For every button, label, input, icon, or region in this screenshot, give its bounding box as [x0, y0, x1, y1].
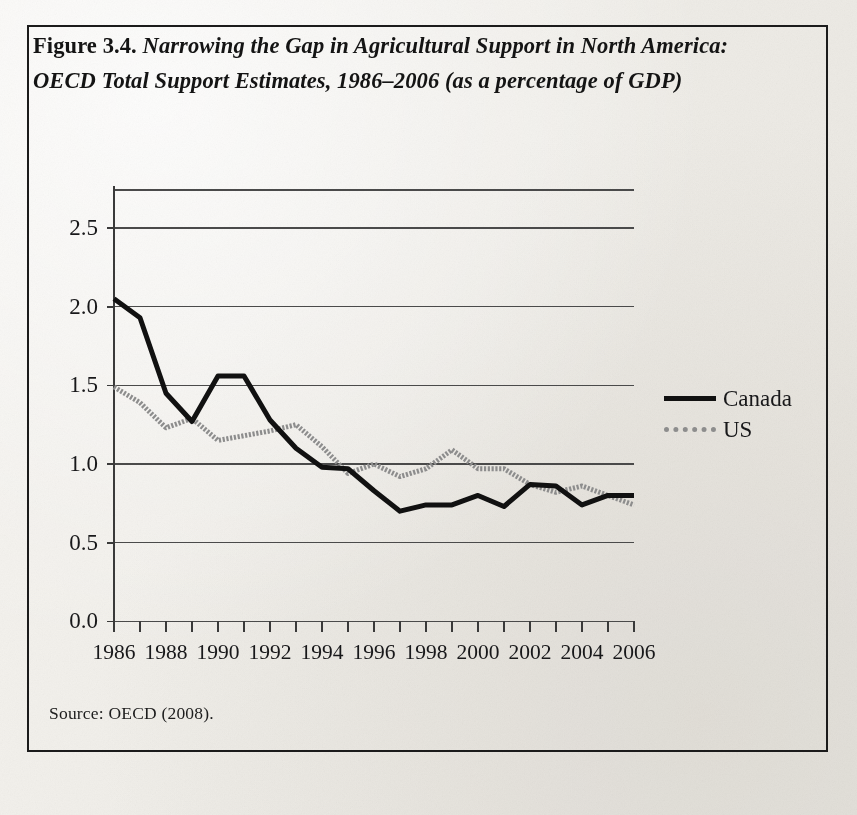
legend-entry-us: US	[664, 414, 824, 445]
chart-plot-area: 2.5 2.0 1.5 1.0 0.5 0.0 1986 1988 1990 1…	[0, 0, 857, 815]
legend-line-swatch-canada	[664, 396, 716, 401]
y-axis-ticks	[107, 228, 114, 621]
chart-legend: Canada US	[664, 383, 824, 445]
y-tick-label-1.0: 1.0	[28, 451, 98, 477]
y-tick-label-2.0: 2.0	[28, 294, 98, 320]
series-line-canada	[114, 299, 634, 511]
legend-line-swatch-us	[664, 427, 716, 432]
x-axis-ticks	[114, 621, 634, 632]
legend-label-us: US	[723, 418, 752, 441]
legend-label-canada: Canada	[723, 387, 792, 410]
gridlines	[114, 190, 634, 621]
x-tick-label-2006: 2006	[601, 640, 667, 665]
source-note: Source: OECD (2008).	[49, 703, 214, 724]
y-tick-label-2.5: 2.5	[28, 215, 98, 241]
y-tick-label-0.5: 0.5	[28, 530, 98, 556]
legend-entry-canada: Canada	[664, 383, 824, 414]
y-tick-label-1.5: 1.5	[28, 372, 98, 398]
y-tick-label-0.0: 0.0	[28, 608, 98, 634]
